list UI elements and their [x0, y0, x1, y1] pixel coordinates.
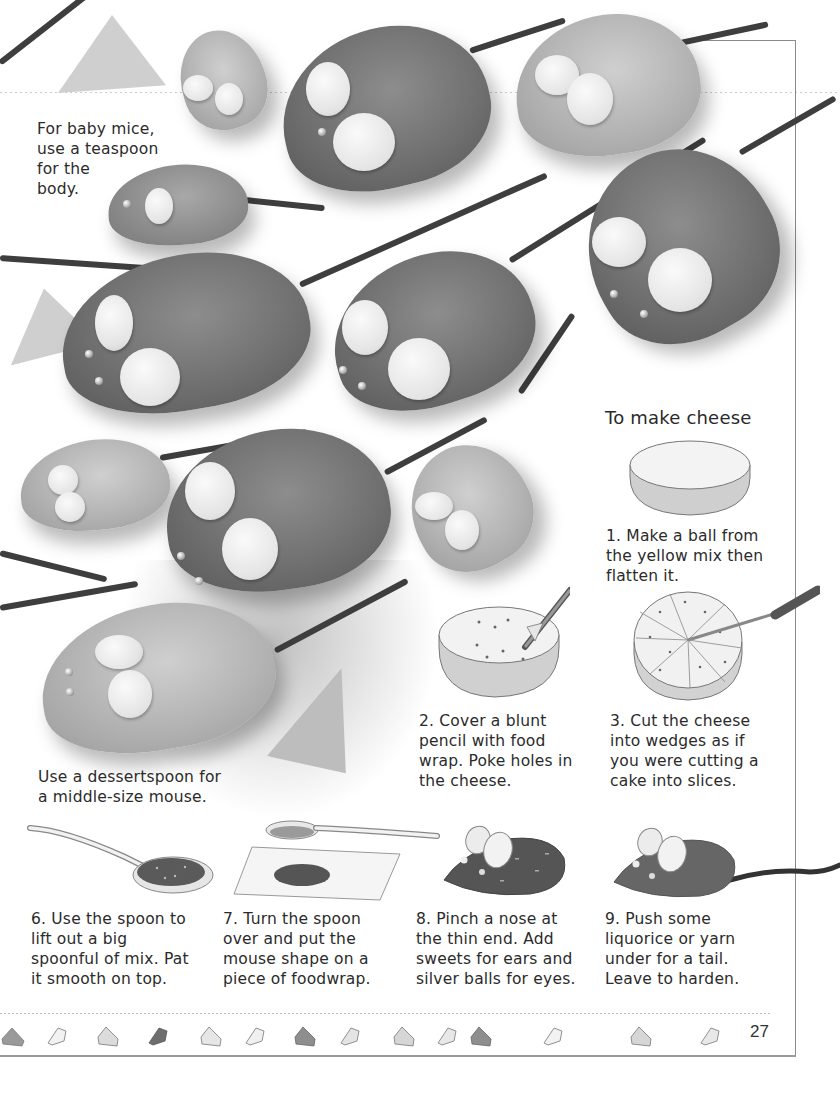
liquorice-tail — [0, 550, 107, 582]
cheese-wedge-icon — [198, 1025, 224, 1047]
cheese-wedge-icon — [468, 1025, 494, 1047]
step-line: 8. Pinch a nose at — [416, 909, 576, 929]
pencil-poking-cheese-illustration — [435, 585, 570, 705]
caption-line: use a teaspoon — [37, 139, 158, 159]
caption-line: Use a dessertspoon for — [38, 767, 221, 787]
mouse-eye — [339, 366, 347, 374]
mouse-ear — [108, 670, 152, 718]
liquorice-tail — [0, 581, 138, 611]
mouse-eye — [66, 688, 74, 696]
mouse-eye — [358, 382, 366, 390]
mouse-eye — [123, 200, 131, 208]
mouse-eye — [195, 577, 203, 585]
cheese-step-3: 3. Cut the cheese into wedges as if you … — [610, 711, 759, 791]
mouse-ear — [95, 635, 143, 669]
step-line: wrap. Poke holes in — [419, 751, 573, 771]
step-line: 9. Push some — [605, 909, 739, 929]
mouse-ear — [415, 492, 453, 520]
spoon-with-mix-illustration — [25, 822, 215, 897]
mouse-eye — [65, 668, 73, 676]
step-line: silver balls for eyes. — [416, 969, 576, 989]
mouse-eye — [95, 377, 103, 385]
baby-mouse — [16, 432, 175, 537]
caption-line: a middle-size mouse. — [38, 787, 221, 807]
mouse-eye — [85, 350, 93, 358]
cheese-step-1: 1. Make a ball from the yellow mix then … — [606, 526, 763, 586]
mouse-ear — [306, 62, 350, 116]
footer-dotted-rule — [0, 1013, 770, 1014]
cheese-wedge-icon — [540, 1025, 566, 1047]
mouse-ear — [95, 295, 133, 351]
mouse-eye — [177, 552, 185, 560]
step-line: liquorice or yarn — [605, 929, 739, 949]
mouse-ear — [567, 73, 613, 125]
flat-cheese-disc-illustration — [625, 435, 755, 520]
step-line: you were cutting a — [610, 751, 759, 771]
step-line: over and put the — [223, 929, 371, 949]
step-line: the cheese. — [419, 771, 573, 791]
mouse-step-7: 7. Turn the spoon over and put the mouse… — [223, 909, 371, 989]
cheese-wedge-photo — [58, 15, 166, 93]
spoon-and-foodwrap-illustration — [232, 812, 442, 907]
mouse-step-6: 6. Use the spoon to lift out a big spoon… — [31, 909, 189, 989]
mouse-ear — [55, 492, 85, 522]
step-line: 6. Use the spoon to — [31, 909, 189, 929]
mouse-step-9: 9. Push some liquorice or yarn under for… — [605, 909, 739, 989]
caption-line: For baby mice, — [37, 119, 158, 139]
step-line: sweets for ears and — [416, 949, 576, 969]
liquorice-tail — [739, 95, 837, 155]
mouse-step-8: 8. Pinch a nose at the thin end. Add swe… — [416, 909, 576, 989]
page-number: 27 — [750, 1022, 769, 1042]
step-line: piece of foodwrap. — [223, 969, 371, 989]
cheese-wedge-icon — [434, 1025, 460, 1047]
step-line: the yellow mix then — [606, 546, 763, 566]
mouse-with-tail-illustration — [610, 820, 840, 900]
mouse-ear — [183, 75, 213, 101]
mouse-ear — [445, 510, 479, 550]
liquorice-tail — [0, 0, 89, 65]
frame-right-line — [795, 40, 796, 1056]
step-line: 7. Turn the spoon — [223, 909, 371, 929]
mouse-ear — [222, 518, 278, 580]
cheese-wedge-icon — [242, 1025, 268, 1047]
cheese-wedge-icon — [697, 1025, 723, 1047]
step-line: spoonful of mix. Pat — [31, 949, 189, 969]
step-line: pencil with food — [419, 731, 573, 751]
step-line: 1. Make a ball from — [606, 526, 763, 546]
cheese-wedge-icon — [337, 1025, 363, 1047]
cheese-wedge-icon — [95, 1025, 121, 1047]
mouse-ear — [48, 465, 78, 495]
step-line: into wedges as if — [610, 731, 759, 751]
mouse-ear — [185, 462, 235, 520]
baby-mice-caption: For baby mice, use a teaspoon for the bo… — [37, 119, 158, 199]
mouse-eye — [610, 290, 618, 298]
knife-cutting-cheese-illustration — [630, 582, 820, 702]
caption-line: for the — [37, 159, 158, 179]
cheese-wedge-icon — [0, 1025, 26, 1047]
step-line: cake into slices. — [610, 771, 759, 791]
liquorice-tail — [679, 21, 768, 46]
step-line: it smooth on top. — [31, 969, 189, 989]
cheese-wedge-icon — [292, 1025, 318, 1047]
book-page: For baby mice, use a teaspoon for the bo… — [0, 0, 840, 1108]
step-line: lift out a big — [31, 929, 189, 949]
mouse-ear — [342, 300, 388, 355]
mouse-ear — [215, 83, 243, 115]
cheese-wedge-icon — [44, 1025, 70, 1047]
step-line: 2. Cover a blunt — [419, 711, 573, 731]
step-line: Leave to harden. — [605, 969, 739, 989]
mouse-ear — [388, 338, 450, 400]
mouse-ear — [120, 348, 180, 406]
section-heading: To make cheese — [605, 407, 752, 428]
cheese-wedge-icon — [628, 1025, 654, 1047]
mouse-ear — [648, 248, 712, 312]
mouse-with-ears-illustration — [440, 818, 570, 898]
cheese-wedge-icon — [391, 1025, 417, 1047]
step-line: mouse shape on a — [223, 949, 371, 969]
baby-mouse — [165, 18, 279, 141]
cheese-step-2: 2. Cover a blunt pencil with food wrap. … — [419, 711, 573, 791]
step-line: 3. Cut the cheese — [610, 711, 759, 731]
liquorice-tail — [245, 197, 325, 211]
mouse-eye — [640, 310, 648, 318]
mouse-ear — [333, 113, 395, 171]
